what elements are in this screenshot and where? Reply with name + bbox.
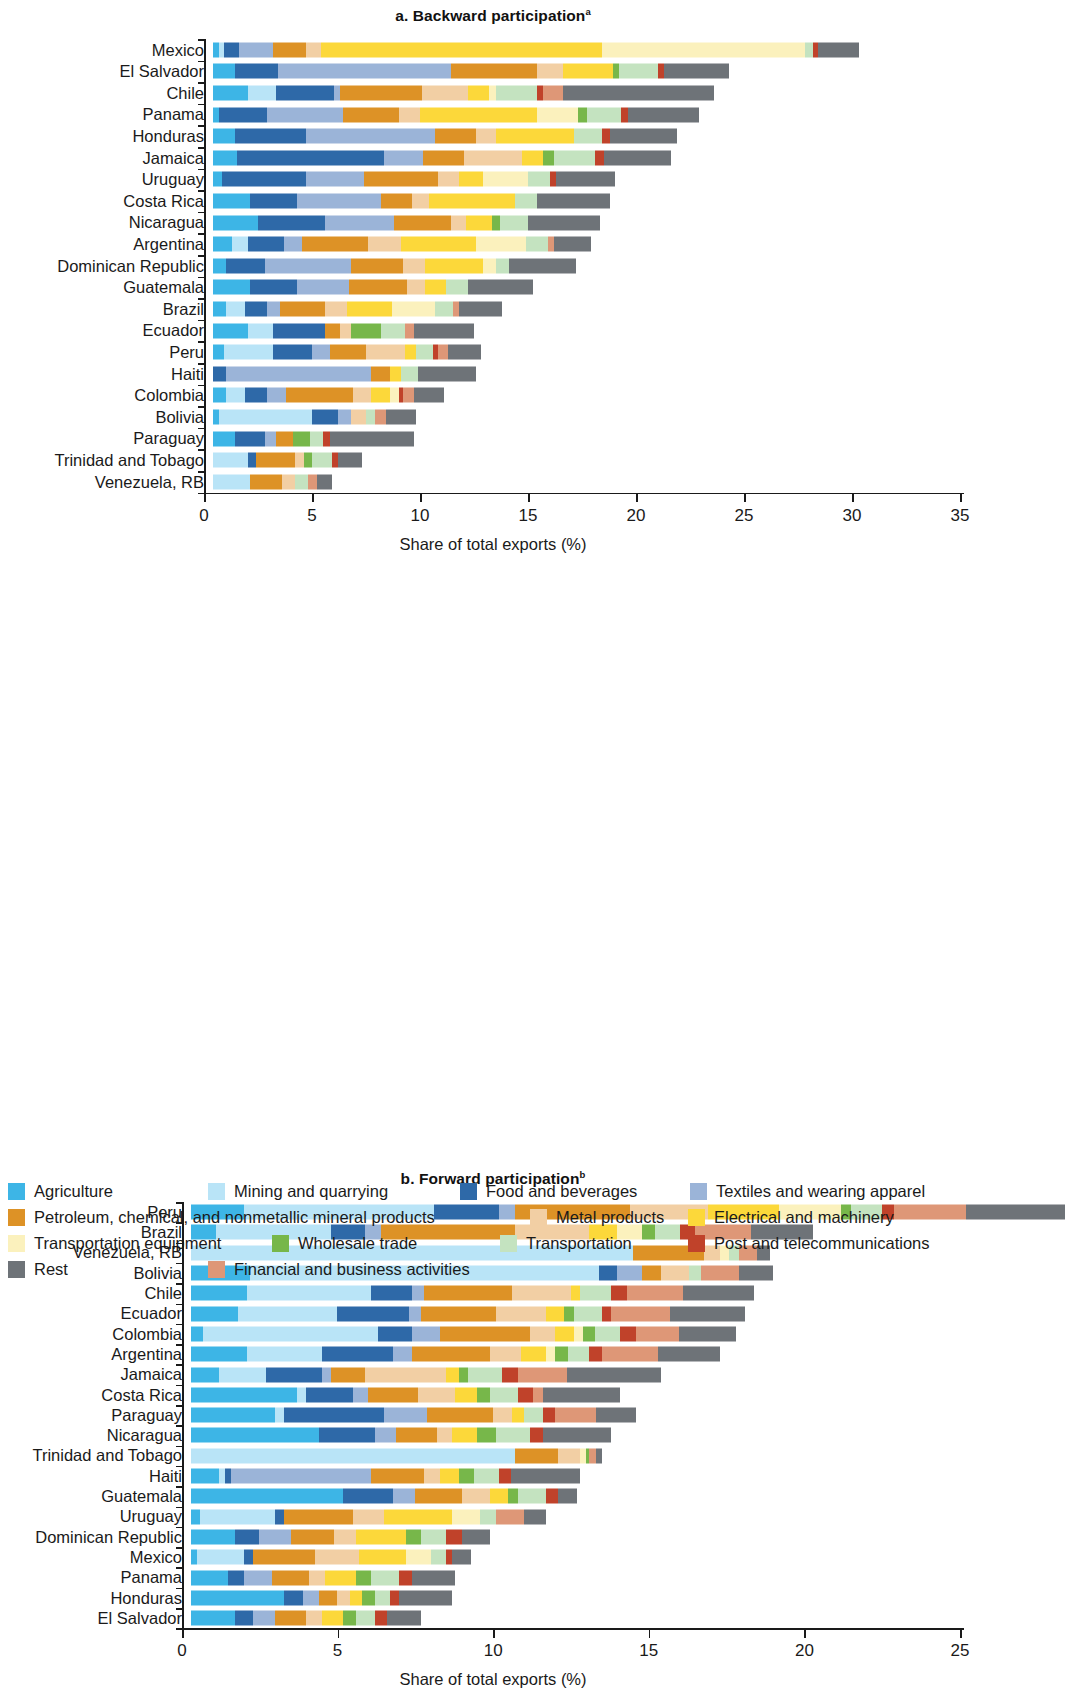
bar-segment-textiles[interactable] — [297, 280, 349, 295]
bar-segment-food-beverages[interactable] — [319, 1428, 375, 1443]
bar-segment-rest[interactable] — [596, 1408, 636, 1423]
stacked-bar[interactable] — [191, 1428, 611, 1443]
bar-segment-metal-products[interactable] — [476, 129, 495, 144]
bar-segment-textiles[interactable] — [338, 409, 351, 424]
bar-segment-rest[interactable] — [658, 1347, 720, 1362]
bar-segment-rest[interactable] — [317, 474, 332, 489]
bar-segment-rest[interactable] — [412, 1570, 456, 1585]
bar-segment-food-beverages[interactable] — [284, 1590, 303, 1605]
bar-segment-mining[interactable] — [191, 1448, 515, 1463]
bar-segment-financial[interactable] — [602, 1347, 658, 1362]
bar-segment-electrical-machinery[interactable] — [490, 1489, 509, 1504]
bar-segment-electrical-machinery[interactable] — [359, 1550, 406, 1565]
bar-segment-electrical-machinery[interactable] — [429, 193, 515, 208]
bar-segment-agriculture[interactable] — [213, 388, 226, 403]
bar-segment-food-beverages[interactable] — [273, 345, 312, 360]
bar-segment-transportation[interactable] — [480, 1509, 496, 1524]
bar-segment-wholesale-trade[interactable] — [508, 1489, 517, 1504]
bar-segment-petroleum[interactable] — [381, 193, 411, 208]
bar-segment-metal-products[interactable] — [325, 301, 347, 316]
bar-segment-petroleum[interactable] — [440, 1326, 530, 1341]
bar-segment-wholesale-trade[interactable] — [343, 1611, 355, 1626]
bar-segment-textiles[interactable] — [353, 1387, 369, 1402]
bar-segment-agriculture[interactable] — [191, 1489, 343, 1504]
bar-segment-electrical-machinery[interactable] — [455, 1387, 477, 1402]
bar-segment-post-telecom[interactable] — [602, 129, 611, 144]
stacked-bar[interactable] — [213, 42, 859, 57]
stacked-bar[interactable] — [191, 1286, 754, 1301]
bar-segment-transportation-equipment[interactable] — [546, 1347, 555, 1362]
stacked-bar[interactable] — [213, 107, 699, 122]
bar-segment-electrical-machinery[interactable] — [512, 1408, 524, 1423]
bar-segment-wholesale-trade[interactable] — [304, 453, 313, 468]
bar-segment-petroleum[interactable] — [343, 107, 399, 122]
stacked-bar[interactable] — [191, 1529, 490, 1544]
bar-segment-rest[interactable] — [679, 1326, 735, 1341]
bar-segment-food-beverages[interactable] — [371, 1286, 411, 1301]
bar-segment-agriculture[interactable] — [213, 150, 237, 165]
bar-segment-post-telecom[interactable] — [530, 1428, 542, 1443]
bar-segment-textiles[interactable] — [384, 150, 423, 165]
bar-segment-textiles[interactable] — [226, 366, 371, 381]
stacked-bar[interactable] — [213, 301, 502, 316]
bar-segment-agriculture[interactable] — [191, 1529, 235, 1544]
bar-segment-metal-products[interactable] — [353, 388, 370, 403]
bar-segment-transportation[interactable] — [371, 1570, 399, 1585]
legend-item-transportation-equipment[interactable]: Transportation equipment — [8, 1235, 221, 1252]
bar-segment-wholesale-trade[interactable] — [356, 1570, 372, 1585]
bar-segment-food-beverages[interactable] — [235, 1529, 260, 1544]
stacked-bar[interactable] — [191, 1550, 471, 1565]
bar-segment-agriculture[interactable] — [191, 1428, 319, 1443]
bar-segment-petroleum[interactable] — [394, 215, 450, 230]
bar-segment-rest[interactable] — [604, 150, 671, 165]
bar-segment-post-telecom[interactable] — [602, 1306, 611, 1321]
bar-segment-agriculture[interactable] — [213, 345, 224, 360]
bar-segment-wholesale-trade[interactable] — [477, 1387, 489, 1402]
bar-segment-electrical-machinery[interactable] — [325, 1570, 356, 1585]
bar-segment-petroleum[interactable] — [415, 1489, 462, 1504]
bar-segment-food-beverages[interactable] — [284, 1408, 384, 1423]
bar-segment-metal-products[interactable] — [451, 215, 466, 230]
bar-segment-metal-products[interactable] — [353, 1509, 384, 1524]
bar-segment-mining[interactable] — [297, 1387, 306, 1402]
bar-segment-transportation[interactable] — [356, 1611, 375, 1626]
bar-segment-transportation[interactable] — [619, 64, 658, 79]
bar-segment-transportation[interactable] — [496, 85, 537, 100]
bar-segment-agriculture[interactable] — [191, 1408, 275, 1423]
bar-segment-mining[interactable] — [224, 345, 274, 360]
bar-segment-mining[interactable] — [247, 1347, 322, 1362]
bar-segment-rest[interactable] — [563, 85, 714, 100]
bar-segment-textiles[interactable] — [297, 193, 381, 208]
bar-segment-agriculture[interactable] — [213, 193, 250, 208]
bar-segment-metal-products[interactable] — [493, 1408, 512, 1423]
bar-segment-electrical-machinery[interactable] — [347, 301, 392, 316]
bar-segment-textiles[interactable] — [267, 388, 286, 403]
stacked-bar[interactable] — [213, 323, 474, 338]
bar-segment-metal-products[interactable] — [424, 1469, 440, 1484]
bar-segment-petroleum[interactable] — [396, 1428, 436, 1443]
stacked-bar[interactable] — [191, 1509, 546, 1524]
bar-segment-textiles[interactable] — [265, 258, 351, 273]
legend-item-mining-and-quarrying[interactable]: Mining and quarrying — [208, 1183, 388, 1200]
bar-segment-rest[interactable] — [543, 1387, 621, 1402]
bar-segment-mining[interactable] — [247, 1286, 371, 1301]
bar-segment-textiles[interactable] — [244, 1570, 272, 1585]
bar-segment-rest[interactable] — [528, 215, 599, 230]
bar-segment-metal-products[interactable] — [306, 42, 321, 57]
bar-segment-rest[interactable] — [524, 1509, 546, 1524]
bar-segment-agriculture[interactable] — [213, 85, 248, 100]
bar-segment-transportation-equipment[interactable] — [483, 172, 528, 187]
bar-segment-transportation[interactable] — [805, 42, 814, 57]
bar-segment-transportation[interactable] — [446, 280, 468, 295]
bar-segment-metal-products[interactable] — [407, 280, 424, 295]
stacked-bar[interactable] — [213, 64, 729, 79]
stacked-bar[interactable] — [213, 237, 591, 252]
bar-segment-metal-products[interactable] — [512, 1286, 571, 1301]
bar-segment-food-beverages[interactable] — [306, 1387, 353, 1402]
bar-segment-agriculture[interactable] — [191, 1611, 235, 1626]
bar-segment-metal-products[interactable] — [438, 172, 460, 187]
bar-segment-rest[interactable] — [567, 1367, 660, 1382]
bar-segment-transportation-equipment[interactable] — [483, 258, 496, 273]
bar-segment-transportation[interactable] — [431, 1550, 447, 1565]
stacked-bar[interactable] — [213, 280, 533, 295]
